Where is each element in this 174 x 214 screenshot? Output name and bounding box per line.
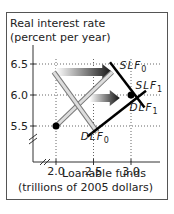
x-tick-label: 3.0 xyxy=(122,165,140,178)
slf0-label: SLF0 xyxy=(120,59,148,74)
x-tick-label: 2.5 xyxy=(85,165,103,178)
x-tick-label: 2.0 xyxy=(47,165,65,178)
y-tick-label: 6.5 xyxy=(11,58,29,71)
dlf1-label: DLF1 xyxy=(130,101,159,116)
new-equilibrium xyxy=(128,92,135,99)
loanable-funds-chart: 2.02.53.05.56.06.5 SLF0SLF1DLF1DLF0 xyxy=(0,0,174,214)
y-tick-label: 5.5 xyxy=(11,120,29,133)
dlf0-label: DLF0 xyxy=(81,130,110,145)
slf1-label: SLF1 xyxy=(136,79,164,94)
initial-equilibrium xyxy=(53,123,60,130)
y-tick-label: 6.0 xyxy=(11,89,29,102)
